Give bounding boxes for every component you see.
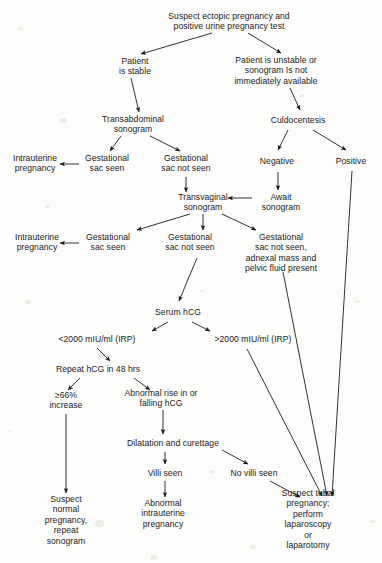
flow-node-n19: >2000 mIU/ml (IRP) <box>214 334 291 344</box>
flow-edge-n4-to-n7 <box>110 136 121 151</box>
flow-edge-n16-to-n28 <box>283 272 327 496</box>
flow-node-n10: Positive <box>336 156 367 166</box>
flow-node-n28: Suspect tubal pregnancy; perform laparos… <box>271 488 345 550</box>
paper-speck <box>25 300 31 304</box>
flow-node-n9: Negative <box>260 156 294 166</box>
flow-node-n16: Gestational sac not seen, adnexal mass a… <box>245 232 317 274</box>
paper-speck <box>8 430 12 432</box>
flow-node-n22: Abnormal rise in or falling hCG <box>124 388 197 409</box>
paper-speck <box>210 470 215 473</box>
flow-edge-n1-to-n2 <box>141 33 212 54</box>
flow-edge-n17-to-n18 <box>152 322 168 331</box>
paper-speck <box>60 118 67 123</box>
paper-speck <box>300 95 304 97</box>
flow-node-n4: Transabdominal sonogram <box>102 114 164 135</box>
paper-speck <box>45 205 50 208</box>
flow-node-n8: Gestational sac not seen <box>161 153 210 174</box>
paper-speck <box>330 430 334 432</box>
flow-node-n27: Abnormal intrauterine pregnancy <box>141 498 185 529</box>
flow-edge-n11-to-n16 <box>222 214 256 230</box>
flow-node-n1: Suspect ectopic pregnancy and positive u… <box>168 11 289 32</box>
flow-edge-n5-to-n10 <box>313 130 346 150</box>
flow-node-n18: <2000 mIU/ml (IRP) <box>58 334 135 344</box>
flow-node-n3: Patient is unstable or sonogram Is not i… <box>234 55 317 86</box>
flow-edge-n23-to-n25 <box>222 450 248 464</box>
flow-edge-n18-to-n20 <box>97 348 110 361</box>
flow-edge-n15-to-n17 <box>179 258 197 301</box>
flow-edge-n4-to-n8 <box>150 136 180 151</box>
flow-node-n11: Transvaginal sonogram <box>178 192 227 213</box>
paper-speck <box>18 27 23 30</box>
edge-layer <box>0 0 382 563</box>
flow-node-n13: Intrauterine pregnancy <box>15 232 59 253</box>
flow-edge-n11-to-n14 <box>137 214 190 230</box>
flow-edge-n10-to-n28 <box>332 171 352 496</box>
flow-edge-n1-to-n3 <box>248 33 281 53</box>
flow-node-n15: Gestational sac not seen <box>165 232 214 253</box>
paper-speck <box>200 290 204 292</box>
flow-edge-n3-to-n5 <box>290 88 300 110</box>
flowchart-canvas: Suspect ectopic pregnancy and positive u… <box>0 0 382 563</box>
flow-node-n23: Dilatation and curettage <box>127 438 219 448</box>
flow-node-n6: Intrauterine pregnancy <box>13 153 57 174</box>
paper-speck <box>150 555 157 560</box>
flow-node-n20: Repeat hCG in 48 hrs <box>56 364 140 374</box>
flow-edge-n17-to-n19 <box>192 322 210 331</box>
flow-node-n21: ≥66% increase <box>50 390 83 411</box>
flow-node-n12: Await sonogram <box>262 192 301 213</box>
paper-speck <box>95 520 104 527</box>
flow-node-n25: No villi seen <box>231 468 278 478</box>
flow-node-n26: Suspect normal pregnancy, repeat sonogra… <box>45 494 87 546</box>
flow-edge-n2-to-n4 <box>131 78 139 112</box>
flow-edge-n20-to-n21 <box>68 378 80 390</box>
paper-speck <box>355 300 360 303</box>
flow-node-n17: Serum hCG <box>155 307 201 317</box>
flow-node-n24: Villi seen <box>148 468 183 478</box>
flow-edge-n5-to-n9 <box>278 130 288 150</box>
flow-node-n5: Culdocentesis <box>271 115 326 125</box>
flow-node-n7: Gestational sac seen <box>85 153 129 174</box>
paper-speck <box>250 545 256 549</box>
paper-speck <box>370 520 375 523</box>
flow-node-n14: Gestational sac seen <box>86 232 130 253</box>
flow-node-n2: Patient is stable <box>119 56 151 77</box>
